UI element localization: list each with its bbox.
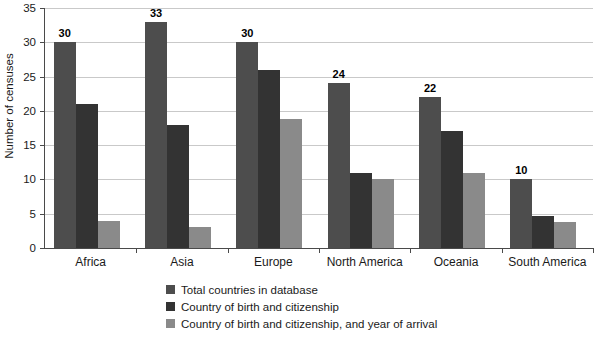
- bar: [167, 125, 189, 248]
- legend-label: Country of birth and citizenship, and ye…: [181, 318, 437, 330]
- bar-value-label: 33: [136, 7, 176, 19]
- legend-swatch-icon: [166, 319, 175, 328]
- x-category-label: Oceania: [410, 255, 501, 269]
- bar: [145, 22, 167, 248]
- bar: [98, 221, 120, 248]
- legend-label: Country of birth and citizenship: [181, 301, 339, 313]
- bar: [463, 173, 485, 248]
- bar: [189, 227, 211, 248]
- legend-swatch-icon: [166, 285, 175, 294]
- legend-item[interactable]: Country of birth and citizenship: [166, 298, 437, 315]
- bar-value-label: 10: [501, 164, 541, 176]
- y-tick-label: 35: [8, 3, 36, 13]
- bar-group: 33: [145, 8, 211, 248]
- bar: [280, 119, 302, 248]
- y-tick-label: 15: [8, 140, 36, 150]
- legend-label: Total countries in database: [181, 284, 318, 296]
- bar-value-label: 24: [319, 68, 359, 80]
- bar: [510, 179, 532, 248]
- x-category-label: Europe: [228, 255, 319, 269]
- x-tick-mark: [228, 248, 229, 253]
- bar-value-label: 30: [45, 27, 85, 39]
- legend-swatch-icon: [166, 302, 175, 311]
- x-category-label: Africa: [45, 255, 136, 269]
- bar: [441, 131, 463, 248]
- bar: [350, 173, 372, 248]
- bar-group: 24: [328, 8, 394, 248]
- bar: [54, 42, 76, 248]
- y-tick-label: 10: [8, 174, 36, 184]
- x-category-label: Asia: [136, 255, 227, 269]
- y-tick-label: 20: [8, 106, 36, 116]
- y-tick-label: 0: [8, 243, 36, 253]
- x-tick-mark: [410, 248, 411, 253]
- x-tick-mark: [319, 248, 320, 253]
- y-tick-label: 30: [8, 37, 36, 47]
- chart-legend: Total countries in databaseCountry of bi…: [166, 281, 437, 332]
- bar: [328, 83, 350, 248]
- legend-item[interactable]: Country of birth and citizenship, and ye…: [166, 315, 437, 332]
- x-category-label: South America: [502, 255, 593, 269]
- bar-group: 30: [54, 8, 120, 248]
- bar: [419, 97, 441, 248]
- bar-value-label: 30: [227, 27, 267, 39]
- bar-group: 10: [510, 8, 576, 248]
- bar: [532, 216, 554, 248]
- bar: [372, 179, 394, 248]
- bar: [258, 70, 280, 248]
- x-category-label: North America: [319, 255, 410, 269]
- bars-container: 303330242210: [45, 8, 593, 248]
- y-tick-label: 5: [8, 209, 36, 219]
- y-tick-mark: [40, 248, 45, 249]
- x-tick-mark: [593, 248, 594, 253]
- bar-group: 22: [419, 8, 485, 248]
- bar-value-label: 22: [410, 82, 450, 94]
- bar: [554, 222, 576, 248]
- x-tick-mark: [502, 248, 503, 253]
- y-tick-label: 25: [8, 72, 36, 82]
- chart-figure: Number of censuses 05101520253035 303330…: [0, 0, 603, 348]
- legend-item[interactable]: Total countries in database: [166, 281, 437, 298]
- bar: [236, 42, 258, 248]
- bar: [76, 104, 98, 248]
- bar-group: 30: [236, 8, 302, 248]
- x-tick-mark: [136, 248, 137, 253]
